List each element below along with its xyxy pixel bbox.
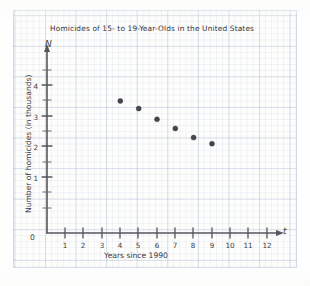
scatter-chart: Homicides of 15- to 19-Year-Olds in the … xyxy=(0,0,310,286)
x-tick-label: 6 xyxy=(150,241,164,250)
x-tick-label: 9 xyxy=(205,241,219,250)
origin-label: 0 xyxy=(30,233,35,242)
data-point xyxy=(155,117,160,122)
x-tick-label: 3 xyxy=(95,241,109,250)
data-point xyxy=(210,141,215,146)
y-tick-label: 1 xyxy=(26,174,38,183)
data-point xyxy=(136,106,141,111)
x-tick-label: 1 xyxy=(58,241,72,250)
x-tick-label: 4 xyxy=(113,241,127,250)
data-point xyxy=(173,126,178,131)
x-axis-variable-label: t xyxy=(283,227,287,236)
x-tick-label: 12 xyxy=(260,241,274,250)
x-tick-label: 11 xyxy=(241,241,255,250)
data-point xyxy=(191,135,196,140)
y-tick-label: 2 xyxy=(26,143,38,152)
y-tick-label: 3 xyxy=(26,113,38,122)
data-point xyxy=(118,98,123,103)
x-axis-title: Years since 1990 xyxy=(104,252,168,260)
data-points xyxy=(118,98,215,146)
x-tick-label: 8 xyxy=(186,241,200,250)
x-tick-label: 5 xyxy=(131,241,145,250)
x-tick-label: 10 xyxy=(223,241,237,250)
y-tick-label: 4 xyxy=(26,82,38,91)
chart-title: Homicides of 15- to 19-Year-Olds in the … xyxy=(50,25,254,32)
x-tick-label: 2 xyxy=(76,241,90,250)
x-tick-label: 7 xyxy=(168,241,182,250)
y-axis-variable-label: N xyxy=(45,40,52,49)
